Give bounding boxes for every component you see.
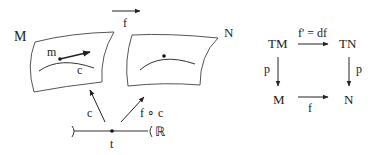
label-reals: ℝ (155, 124, 166, 139)
label-M: M (14, 29, 27, 44)
node-TN: TN (339, 36, 357, 51)
image-curve (140, 59, 195, 70)
label-f-prime-df: f' = df (298, 26, 327, 40)
manifold-M-patch (30, 32, 114, 92)
label-t: t (110, 137, 114, 151)
label-curve-c: c (77, 63, 82, 77)
label-f-o-c: f ∘ c (140, 106, 163, 120)
manifold-N-patch (127, 34, 218, 86)
node-M: M (273, 92, 285, 107)
label-c-arrow: c (87, 106, 92, 120)
node-N: N (344, 92, 354, 107)
image-point (162, 54, 166, 58)
label-N: N (224, 25, 234, 40)
interval-left-bracket (72, 126, 74, 137)
tangent-vector-arrow (60, 52, 90, 59)
node-TM: TM (268, 36, 288, 51)
interval-right-bracket (150, 126, 152, 137)
label-right-p: p (356, 62, 362, 76)
label-bottom-f: f (308, 101, 312, 115)
label-m: m (47, 45, 57, 59)
curve-c (39, 63, 94, 71)
label-f: f (123, 16, 127, 30)
diagram-canvas: M N f m c c f ∘ c t ℝ TM TN M N f' = df … (0, 0, 377, 155)
point-t (110, 129, 114, 133)
label-left-p: p (264, 62, 270, 76)
